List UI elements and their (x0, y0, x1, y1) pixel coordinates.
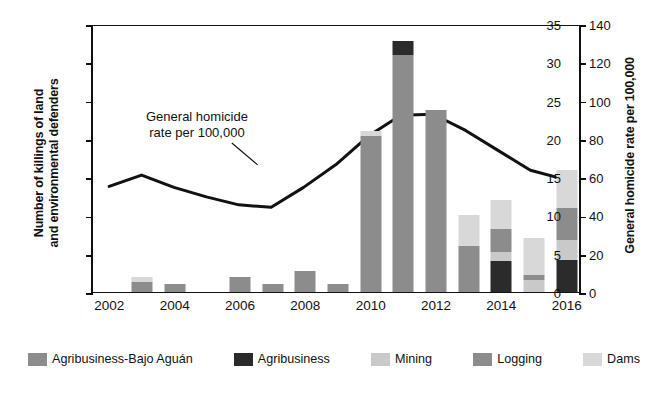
bar-2009 (328, 284, 349, 292)
y-axis-right-title: General homicide rate per 100,000 (623, 26, 638, 286)
y-axis-left-tick-label: 15 (547, 172, 561, 185)
chart-legend: Agribusiness-Bajo AguánAgribusinessMinin… (28, 352, 640, 366)
legend-item-2[interactable]: Mining (371, 352, 432, 366)
plot-inner (93, 26, 579, 292)
y-axis-right-tick (579, 255, 586, 257)
legend-label: Dams (607, 352, 640, 366)
y-axis-right-tick-label: 60 (589, 172, 603, 185)
bar-2003 (132, 277, 153, 292)
x-axis-tick-label: 2004 (160, 298, 190, 313)
x-axis-tick-label: 2006 (225, 298, 255, 313)
line-annotation-row2: rate per 100,000 (146, 125, 248, 141)
plot-area: 0510152025303502040608010012014020022004… (91, 25, 581, 293)
bar-segment (230, 277, 251, 292)
y-axis-left-tick (86, 255, 93, 257)
bar-segment (491, 229, 512, 252)
bar-segment (491, 200, 512, 229)
y-axis-right-tick (579, 217, 586, 219)
y-axis-right-tick (579, 102, 586, 104)
bar-segment (458, 215, 479, 246)
bar-2014 (491, 200, 512, 292)
y-axis-left-tick (86, 63, 93, 65)
legend-item-3[interactable]: Logging (473, 352, 542, 366)
legend-item-0[interactable]: Agribusiness-Bajo Aguán (28, 352, 193, 366)
x-axis-tick-label: 2002 (94, 298, 124, 313)
y-axis-left-tick-label: 35 (547, 19, 561, 32)
y-axis-left-title-line1: Number of killings of land (32, 33, 47, 293)
legend-item-4[interactable]: Dams (583, 352, 640, 366)
y-axis-right-tick (579, 63, 586, 65)
y-axis-right-tick-label: 20 (589, 249, 603, 262)
y-axis-right-tick-label: 80 (589, 134, 603, 147)
bar-segment (328, 284, 349, 292)
y-axis-left-tick (86, 102, 93, 104)
bar-segment (262, 284, 283, 292)
bar-2006 (230, 277, 251, 292)
y-axis-right-tick (579, 293, 586, 295)
y-axis-left-tick (86, 293, 93, 295)
bar-segment (393, 41, 414, 55)
y-axis-left-tick-label: 25 (547, 96, 561, 109)
bar-2008 (295, 271, 316, 292)
bar-segment (132, 282, 153, 292)
y-axis-right-tick-label: 140 (589, 19, 611, 32)
legend-label: Agribusiness (258, 352, 330, 366)
bar-2016 (556, 170, 577, 293)
legend-swatch (473, 353, 492, 366)
bar-segment (295, 271, 316, 292)
y-axis-left-tick (86, 217, 93, 219)
bar-segment (360, 136, 381, 292)
bar-2011 (393, 41, 414, 292)
line-annotation: General homicide rate per 100,000 (146, 109, 248, 141)
y-axis-right-tick-label: 0 (589, 287, 596, 300)
y-axis-left-tick-label: 5 (554, 249, 561, 262)
legend-swatch (28, 353, 47, 366)
y-axis-right-tick-label: 100 (589, 96, 611, 109)
x-axis-tick-label: 2012 (421, 298, 451, 313)
legend-label: Logging (497, 352, 542, 366)
bar-segment (393, 55, 414, 292)
legend-label: Mining (395, 352, 432, 366)
y-axis-left-tick-label: 30 (547, 57, 561, 70)
y-axis-left-tick (86, 140, 93, 142)
y-axis-right-tick-label: 120 (589, 57, 611, 70)
legend-swatch (583, 353, 602, 366)
x-axis-tick-label: 2010 (356, 298, 386, 313)
annotation-leader-line (232, 143, 258, 165)
y-axis-right-tick (579, 178, 586, 180)
bar-2012 (426, 110, 447, 292)
y-axis-right-tick (579, 140, 586, 142)
y-axis-left-tick (86, 25, 93, 27)
bar-segment (491, 261, 512, 292)
legend-label: Agribusiness-Bajo Aguán (52, 352, 193, 366)
line-annotation-row1: General homicide (146, 109, 248, 125)
bar-segment (164, 284, 185, 292)
legend-item-1[interactable]: Agribusiness (234, 352, 330, 366)
y-axis-left-title: Number of killings of land and environme… (32, 33, 62, 293)
bar-2004 (164, 284, 185, 292)
y-axis-left-tick (86, 178, 93, 180)
legend-swatch (234, 353, 253, 366)
y-axis-left-tick-label: 10 (547, 210, 561, 223)
x-axis-tick-label: 2014 (486, 298, 516, 313)
y-axis-right-tick-label: 40 (589, 210, 603, 223)
x-axis-tick-label: 2008 (290, 298, 320, 313)
bar-segment (524, 238, 545, 275)
legend-swatch (371, 353, 390, 366)
bar-segment (524, 280, 545, 292)
bar-2013 (458, 215, 479, 292)
y-axis-right-tick (579, 25, 586, 27)
bar-segment (491, 252, 512, 261)
chart-figure: Number of killings of land and environme… (0, 0, 657, 399)
y-axis-left-tick-label: 20 (547, 134, 561, 147)
bar-2010 (360, 131, 381, 292)
bar-2007 (262, 284, 283, 292)
bar-segment (426, 110, 447, 292)
x-axis-tick-label: 2016 (552, 298, 582, 313)
y-axis-left-title-line2: and environmental defenders (47, 33, 62, 293)
bar-segment (458, 246, 479, 292)
bar-2015 (524, 238, 545, 292)
